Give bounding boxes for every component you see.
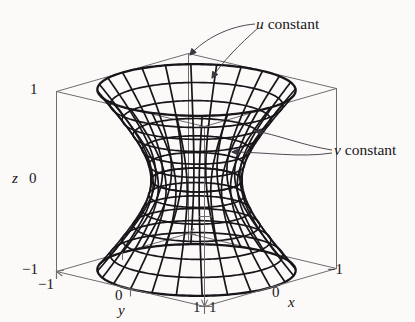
x-tick-1: 1 <box>209 300 217 315</box>
z-tick-1: 1 <box>30 82 38 97</box>
z-tick-0: 0 <box>29 171 37 186</box>
x-tick-0: 0 <box>272 285 280 300</box>
callout-u-constant: u constant <box>256 16 319 32</box>
callout-v-constant: v constant <box>334 142 396 158</box>
v-constant-meridian <box>98 91 151 180</box>
v-constant-meridian <box>242 180 295 269</box>
u-constant-ring <box>122 221 271 260</box>
callout-v-var: v <box>334 141 341 158</box>
v-constant-meridian <box>240 176 291 262</box>
figure-container: z 1 0 −1 −1 0 1 y 1 0 −1 x u constant v … <box>0 0 415 322</box>
u-constant-ring <box>97 64 295 116</box>
leader-line <box>212 28 258 78</box>
x-tick-neg1: −1 <box>327 262 343 277</box>
leader-arrowhead <box>232 149 238 155</box>
z-tick-neg1: −1 <box>22 262 38 277</box>
v-constant-meridian <box>102 98 153 184</box>
surface-lower-sheet <box>97 168 295 296</box>
u-constant-ring <box>122 101 271 140</box>
axis-label-z: z <box>12 171 18 186</box>
y-tick-0: 0 <box>115 288 123 303</box>
surface-plot <box>0 0 415 322</box>
callout-v-word: constant <box>345 141 397 158</box>
y-tick-1: 1 <box>193 300 201 315</box>
surface-upper-sheet <box>97 64 295 192</box>
y-tick-neg1: −1 <box>38 277 54 292</box>
callout-u-word: constant <box>268 15 320 32</box>
leader-line <box>255 131 332 150</box>
box-edge <box>205 269 337 307</box>
axis-label-x: x <box>288 295 295 310</box>
axis-label-y: y <box>118 303 125 318</box>
callout-u-var: u <box>256 15 264 32</box>
